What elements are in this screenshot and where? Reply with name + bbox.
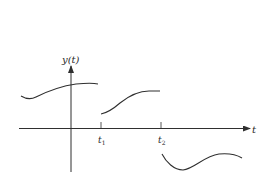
segment-before-t1: [21, 83, 98, 99]
segment-after-t2: [162, 154, 242, 170]
y-axis-label: y(t): [61, 54, 80, 65]
tick-label-t1: t1: [98, 135, 105, 146]
signal-diagram: y(t) t t1 t2: [0, 0, 275, 193]
tick-label-t2: t2: [158, 135, 166, 146]
segment-t1-to-t2: [101, 91, 160, 114]
t-axis-label: t: [252, 124, 257, 135]
